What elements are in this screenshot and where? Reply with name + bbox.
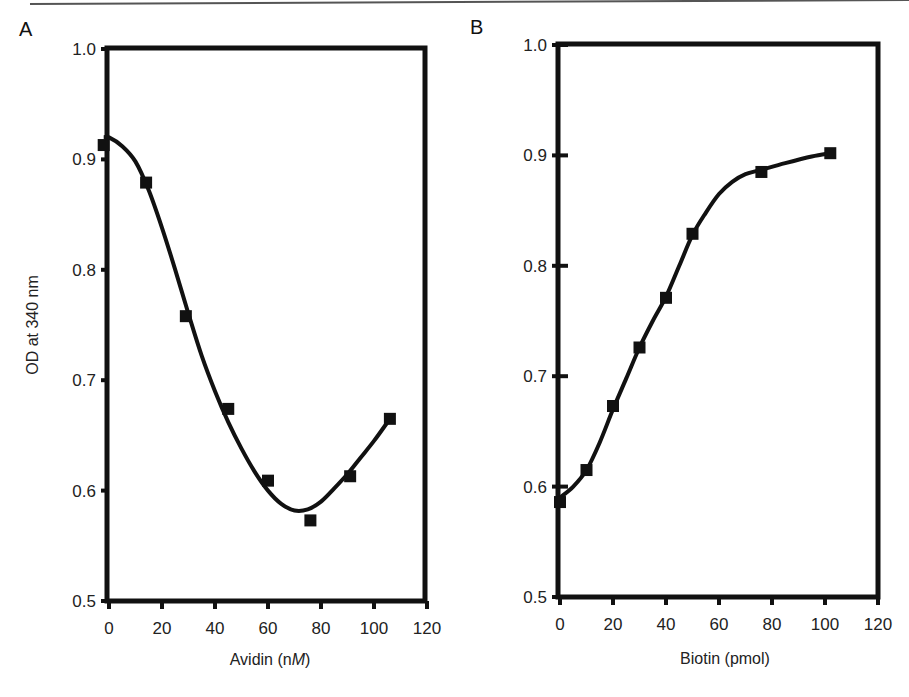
x-tick-label: 80 [312,619,331,638]
data-point-square-marker [98,139,110,151]
panel-label-b: B [470,16,483,38]
x-axis-title-b: Biotin (pmol) [680,650,770,667]
x-tick-label: 40 [206,619,225,638]
x-tick-label: 0 [555,615,564,634]
fit-curve-a [104,137,390,511]
x-tick-label: 20 [153,619,172,638]
x-axis-a: 020406080100120 [104,601,441,638]
x-tick-label: 80 [763,615,782,634]
data-point-square-marker [660,292,672,304]
data-point-square-marker [824,147,836,159]
y-tick-label: 0.7 [72,371,96,390]
data-point-square-marker [607,400,619,412]
y-tick-label: 0.6 [72,482,96,501]
x-axis-title-a: Avidin (nM) [230,651,311,668]
y-tick-label: 0.5 [72,592,96,611]
x-tick-label: 60 [259,619,278,638]
x-tick-label: 20 [604,615,623,634]
x-tick-label: 120 [864,615,892,634]
data-point-square-marker [180,310,192,322]
y-tick-label: 0.7 [523,367,547,386]
fit-curve-b [560,153,830,497]
figure: A 0.50.60.70.80.91.0 020406080100120 OD … [0,0,909,697]
x-tick-label: 60 [710,615,729,634]
data-point-square-marker [344,470,356,482]
x-tick-label: 0 [104,619,113,638]
y-tick-label: 0.5 [523,588,547,607]
plot-frame-a [107,48,425,601]
y-axis-a: 0.50.60.70.80.91.0 [72,40,109,611]
x-tick-label: 40 [657,615,676,634]
y-tick-label: 0.8 [523,257,547,276]
top-rule [30,0,909,4]
panel-b: B 0.50.60.70.80.91.0 020406080100120 Bio… [470,16,892,667]
plot-frame-b [558,44,878,597]
data-point-square-marker [554,496,566,508]
data-point-square-marker [262,475,274,487]
x-tick-label: 100 [360,619,388,638]
y-tick-label: 0.8 [72,261,96,280]
x-tick-label: 120 [413,619,441,638]
panel-a: A 0.50.60.70.80.91.0 020406080100120 OD … [19,18,441,668]
y-tick-label: 1.0 [523,36,547,55]
y-axis-title-a: OD at 340 nm [24,275,41,375]
y-tick-label: 0.9 [72,150,96,169]
y-tick-label: 0.6 [523,478,547,497]
y-tick-label: 1.0 [72,40,96,59]
panel-label-a: A [19,18,33,40]
data-point-square-marker [384,413,396,425]
data-point-square-marker [222,403,234,415]
data-point-square-marker [634,341,646,353]
data-point-square-marker [581,464,593,476]
x-axis-b: 020406080100120 [555,597,892,634]
data-point-square-marker [140,177,152,189]
x-tick-label: 100 [811,615,839,634]
y-axis-b: 0.50.60.70.80.91.0 [523,36,568,607]
data-point-square-marker [304,514,316,526]
data-point-square-marker [755,166,767,178]
y-tick-label: 0.9 [523,146,547,165]
data-point-square-marker [687,228,699,240]
